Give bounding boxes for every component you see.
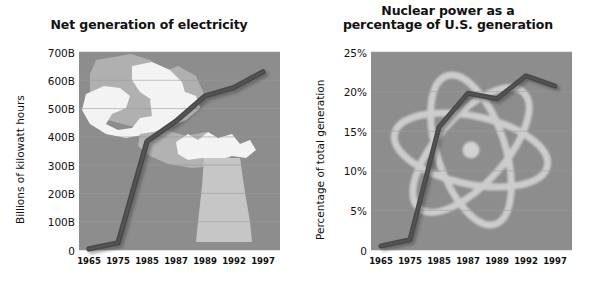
y-tick-right-10: 10% xyxy=(344,165,367,177)
x-tick-right-1985: 1985 xyxy=(427,256,451,266)
plot-svg-right: 0 5% 10% 15% 20% 25% 1965 1975 1985 1987… xyxy=(299,0,597,288)
y-tick-right-0: 0 xyxy=(360,245,367,257)
chart-nuclear-percentage: Nuclear power as a percentage of U.S. ge… xyxy=(299,0,597,288)
y-tick-left-200: 200B xyxy=(48,188,75,200)
x-tick-right-1989: 1989 xyxy=(485,256,509,266)
y-tick-right-15: 15% xyxy=(344,126,367,138)
y-tick-left-400: 400B xyxy=(48,131,75,143)
x-tick-right-1975: 1975 xyxy=(398,256,422,266)
x-tick-left-1975: 1975 xyxy=(106,256,130,266)
x-axis-ticks-left: 1965 1975 1985 1987 1989 1992 1997 xyxy=(77,256,275,266)
y-tick-right-5: 5% xyxy=(350,205,367,217)
figure-root: Net generation of electricity Billions o… xyxy=(0,0,597,288)
y-axis-ticks-right: 0 5% 10% 15% 20% 25% xyxy=(344,47,367,257)
x-tick-left-1965: 1965 xyxy=(77,256,101,266)
chart-net-generation: Net generation of electricity Billions o… xyxy=(0,0,298,288)
y-tick-left-500: 500B xyxy=(48,103,75,115)
x-tick-left-1987: 1987 xyxy=(164,256,188,266)
x-tick-left-1997: 1997 xyxy=(251,256,275,266)
y-tick-left-300: 300B xyxy=(48,160,75,172)
x-tick-right-1997: 1997 xyxy=(543,256,567,266)
x-tick-left-1989: 1989 xyxy=(193,256,217,266)
x-tick-left-1985: 1985 xyxy=(135,256,159,266)
y-tick-left-0: 0 xyxy=(68,245,75,257)
y-tick-left-100: 100B xyxy=(48,216,75,228)
y-tick-right-20: 20% xyxy=(344,86,367,98)
y-tick-left-600: 600B xyxy=(48,75,75,87)
x-tick-right-1965: 1965 xyxy=(369,256,393,266)
x-tick-right-1987: 1987 xyxy=(456,256,480,266)
y-tick-right-25: 25% xyxy=(344,47,367,59)
x-tick-left-1992: 1992 xyxy=(222,256,246,266)
x-axis-ticks-right: 1965 1975 1985 1987 1989 1992 1997 xyxy=(369,256,567,266)
plot-svg-left: 0 100B 200B 300B 400B 500B 600B 700B 196… xyxy=(0,0,298,288)
x-tick-right-1992: 1992 xyxy=(514,256,538,266)
y-axis-ticks-left: 0 100B 200B 300B 400B 500B 600B 700B xyxy=(48,47,75,257)
atom-nucleus xyxy=(463,142,480,159)
y-tick-left-700: 700B xyxy=(48,47,75,59)
